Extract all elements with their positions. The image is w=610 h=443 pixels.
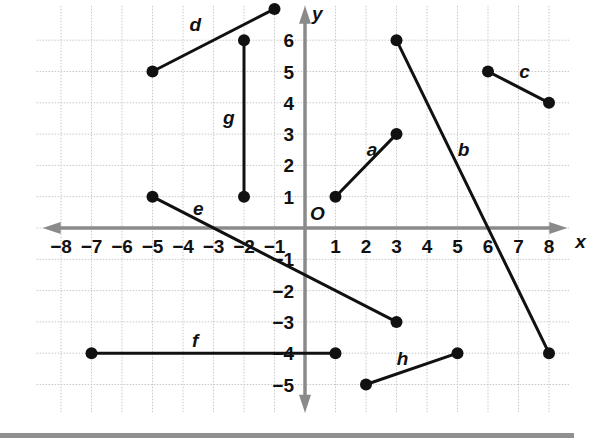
y-axis-label: y: [311, 3, 324, 24]
endpoint-dot: [391, 128, 403, 140]
endpoint-dot: [238, 191, 250, 203]
y-tick-label: −3: [272, 312, 294, 333]
endpoint-dot: [147, 191, 159, 203]
endpoint-dot: [543, 97, 555, 109]
tick-labels: −8−7−6−5−4−3−2−112345678654321−1−2−3−4−5: [50, 30, 554, 395]
x-tick-label: −6: [111, 236, 133, 257]
segment-label: d: [189, 14, 201, 35]
endpoint-dot: [86, 347, 98, 359]
x-tick-label: 8: [544, 236, 555, 257]
endpoint-dot: [360, 379, 372, 391]
x-axis-arrow-left-icon: [43, 222, 61, 234]
x-tick-label: −8: [50, 236, 72, 257]
y-tick-label: 5: [283, 62, 294, 83]
x-tick-label: −3: [203, 236, 225, 257]
y-tick-label: 1: [283, 187, 294, 208]
segment-label: c: [519, 61, 530, 82]
segment-line: [366, 353, 458, 384]
endpoint-dot: [482, 66, 494, 78]
x-tick-label: 4: [422, 236, 433, 257]
x-tick-label: −7: [81, 236, 103, 257]
segment-g: g: [222, 34, 250, 203]
y-tick-label: 6: [283, 30, 294, 51]
x-tick-label: 2: [361, 236, 372, 257]
bottom-divider: [0, 433, 574, 438]
x-tick-label: −4: [172, 236, 194, 257]
y-tick-label: 3: [283, 124, 294, 145]
x-tick-label: 3: [391, 236, 402, 257]
segment-label: a: [367, 139, 378, 160]
y-tick-label: −5: [272, 375, 294, 396]
endpoint-dot: [330, 347, 342, 359]
x-axis-label: x: [574, 231, 587, 252]
x-tick-label: 1: [330, 236, 341, 257]
segment-label: h: [397, 348, 409, 369]
x-tick-label: 7: [513, 236, 524, 257]
endpoint-dot: [238, 34, 250, 46]
x-axis-arrow-right-icon: [549, 222, 567, 234]
endpoint-dot: [543, 347, 555, 359]
origin-label: O: [310, 203, 325, 224]
segment-label: e: [193, 198, 204, 219]
x-tick-label: 5: [452, 236, 463, 257]
x-tick-label: −5: [142, 236, 164, 257]
y-axis-arrow-down-icon: [299, 395, 311, 413]
y-tick-label: 2: [283, 155, 294, 176]
y-axis-arrow-up-icon: [299, 6, 311, 24]
endpoint-dot: [330, 191, 342, 203]
segment-label: f: [192, 330, 200, 351]
endpoint-dot: [452, 347, 464, 359]
coordinate-plane: −8−7−6−5−4−3−2−112345678654321−1−2−3−4−5…: [0, 0, 610, 443]
x-tick-label: 6: [483, 236, 494, 257]
y-tick-label: −2: [272, 281, 294, 302]
segment-label: b: [458, 139, 470, 160]
segment-label: g: [222, 107, 235, 128]
y-tick-label: 4: [283, 93, 294, 114]
endpoint-dot: [147, 66, 159, 78]
endpoint-dot: [391, 316, 403, 328]
endpoint-dot: [391, 34, 403, 46]
endpoint-dot: [269, 3, 281, 15]
